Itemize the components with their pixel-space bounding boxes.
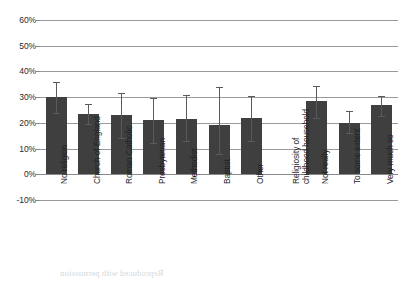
- error-bar-cap-upper: [248, 96, 255, 97]
- y-tick-mark: [36, 97, 40, 98]
- error-bar-cap-lower: [313, 118, 320, 119]
- error-bar-cap-upper: [85, 104, 92, 105]
- error-bar-cap-lower: [378, 116, 385, 117]
- x-axis-label: Not really: [321, 149, 331, 184]
- y-tick-label: 20%: [2, 118, 36, 128]
- x-axis-labels: No religionChurch of EnglandRoman Cathol…: [40, 176, 398, 286]
- error-bar-cap-lower: [183, 141, 190, 142]
- y-tick-label: 40%: [2, 66, 36, 76]
- x-axis-group-label: Religiosity of childhood household: [292, 104, 311, 184]
- y-tick-label: 30%: [2, 92, 36, 102]
- x-axis-label: Baptist: [223, 159, 233, 184]
- x-axis-label: Methodist: [190, 148, 200, 184]
- error-bar: [349, 111, 350, 133]
- x-axis-label: No religion: [60, 145, 70, 184]
- error-bar-cap-lower: [216, 154, 223, 155]
- error-bar: [316, 86, 317, 118]
- y-tick-label: 10%: [2, 144, 36, 154]
- error-bar-cap-upper: [313, 86, 320, 87]
- error-bar: [186, 95, 187, 141]
- error-bar: [381, 96, 382, 117]
- error-bar-cap-upper: [378, 96, 385, 97]
- x-axis-label: Very much so: [386, 134, 396, 184]
- x-axis-label: Church of England: [93, 116, 103, 184]
- y-tick-mark: [36, 123, 40, 124]
- error-bar: [251, 96, 252, 141]
- x-axis-label: To some extent: [353, 128, 363, 184]
- error-bar: [153, 98, 154, 143]
- x-axis-label: Other: [256, 163, 266, 184]
- x-axis-label: Presbyterian: [158, 138, 168, 184]
- y-tick-label: 0%: [2, 169, 36, 179]
- error-bar-cap-lower: [248, 141, 255, 142]
- y-tick-mark: [36, 149, 40, 150]
- error-bar-cap-upper: [216, 87, 223, 88]
- bar-chart-figure: 60%50%40%30%20%10%0%-10% No religionChur…: [0, 0, 413, 289]
- error-bar-cap-upper: [183, 95, 190, 96]
- error-bar: [121, 93, 122, 138]
- x-axis-label: Roman Catholic: [125, 126, 135, 184]
- error-bar-cap-upper: [346, 111, 353, 112]
- y-tick-mark: [36, 20, 40, 21]
- y-tick-mark: [36, 71, 40, 72]
- y-tick-label: 60%: [2, 15, 36, 25]
- error-bar: [56, 82, 57, 113]
- y-tick-label: -10%: [2, 195, 36, 205]
- error-bar-cap-upper: [118, 93, 125, 94]
- y-tick-mark: [36, 46, 40, 47]
- y-tick-label: 50%: [2, 41, 36, 51]
- error-bar-cap-lower: [53, 113, 60, 114]
- error-bar-cap-upper: [150, 98, 157, 99]
- error-bar: [219, 87, 220, 154]
- error-bar: [88, 104, 89, 125]
- error-bar-cap-upper: [53, 82, 60, 83]
